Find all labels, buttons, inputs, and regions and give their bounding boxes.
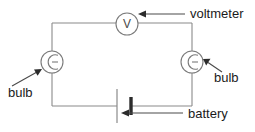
voltmeter-symbol: V: [116, 13, 138, 35]
circuit-loop-wires: [52, 23, 192, 106]
battery-label: battery: [188, 106, 228, 121]
voltmeter-leader-arrowhead-icon: [138, 11, 146, 18]
bulb-right-symbol: [181, 51, 203, 73]
circuit-diagram-canvas: V: [0, 0, 255, 132]
bulb-right-label: bulb: [214, 70, 239, 85]
bulb-left-label: bulb: [8, 85, 33, 100]
bulb-right-leader-arrowhead-icon: [203, 59, 211, 66]
voltmeter-label: voltmeter: [190, 6, 244, 21]
bulb-left-leader-line: [12, 72, 37, 86]
battery-symbol: [117, 89, 131, 123]
battery-leader-arrowhead-icon: [121, 110, 129, 117]
bulb-left-symbol: [41, 51, 63, 73]
voltmeter-letter-icon: V: [123, 17, 131, 31]
circuit-diagram: V: [0, 0, 255, 132]
